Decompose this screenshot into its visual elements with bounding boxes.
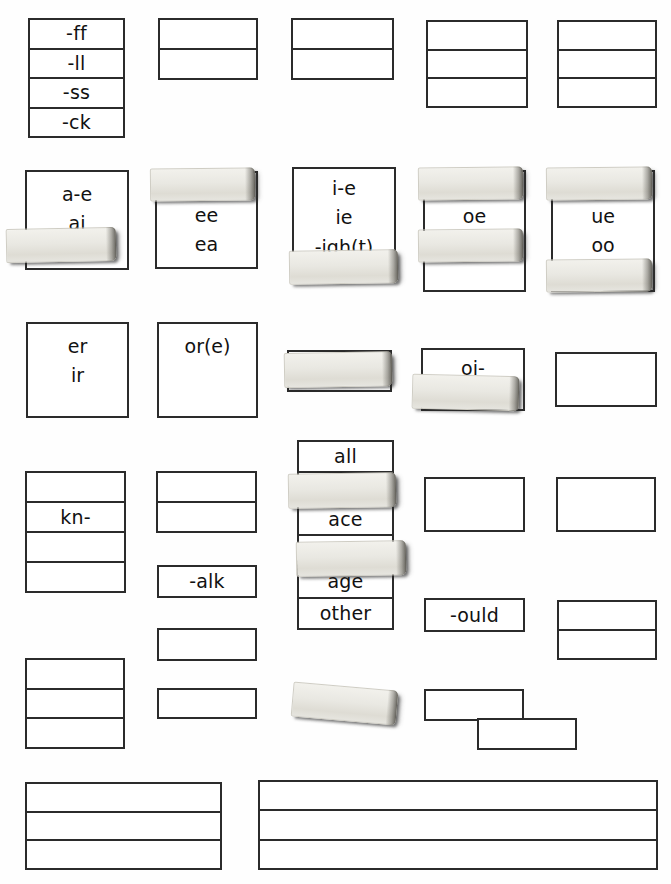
box-ould[interactable]: -ould (424, 598, 525, 632)
grapheme-label: oe (463, 202, 486, 231)
worksheet-page: -ff -ll -ss -ck a-e ai ee ea i-e ie -igh… (0, 0, 671, 884)
table-row[interactable] (260, 811, 656, 840)
table-row[interactable] (426, 479, 523, 530)
box-r4-c2[interactable] (156, 471, 257, 533)
table-row[interactable] (426, 691, 522, 719)
table-row[interactable] (558, 479, 654, 530)
table-row[interactable] (293, 50, 392, 78)
table-row[interactable] (479, 720, 575, 748)
table-row[interactable] (559, 79, 655, 106)
box-bottom-right[interactable] (258, 780, 658, 870)
strip-oe-middle[interactable] (418, 228, 523, 262)
table-row[interactable] (559, 51, 655, 80)
table-row[interactable]: -ss (30, 79, 123, 109)
table-row[interactable] (27, 841, 220, 868)
box-alk[interactable]: -alk (157, 565, 257, 598)
box-r1-c5[interactable] (557, 20, 657, 108)
table-row[interactable] (428, 22, 526, 51)
box-r5-c1[interactable] (25, 658, 125, 749)
table-row[interactable] (158, 503, 255, 531)
table-row[interactable] (293, 20, 392, 50)
strip-r3-c3[interactable] (284, 351, 393, 388)
grapheme-label: a-e (62, 180, 92, 209)
strip-ue-top[interactable] (546, 166, 652, 200)
table-row[interactable] (27, 690, 123, 720)
table-row[interactable] (559, 22, 655, 51)
grapheme-label: ee (195, 201, 218, 230)
grapheme-label: ie (336, 203, 353, 232)
table-row[interactable]: -alk (159, 567, 255, 596)
table-row[interactable] (27, 784, 220, 813)
box-or-e[interactable]: or(e) (157, 322, 258, 418)
box-all-ace-age-other[interactable]: all ace age other (297, 440, 394, 630)
table-row[interactable]: -ould (426, 600, 523, 630)
table-row[interactable] (559, 602, 655, 631)
grapheme-label: er (68, 332, 88, 361)
strip-all-row4[interactable] (296, 540, 407, 577)
box-ff-ll-ss-ck[interactable]: -ff -ll -ss -ck (28, 18, 125, 138)
table-row[interactable] (428, 79, 526, 106)
table-row[interactable] (159, 690, 255, 717)
strip-oe-top[interactable] (418, 166, 523, 200)
box-r4-c4[interactable] (424, 477, 525, 532)
table-row[interactable] (160, 50, 256, 78)
grapheme-label: ea (195, 230, 218, 259)
box-r5-c5[interactable] (477, 718, 577, 750)
box-r4-c7[interactable] (557, 600, 657, 660)
box-r1-c4[interactable] (426, 20, 528, 108)
table-row[interactable]: all (299, 442, 392, 473)
table-row[interactable] (159, 630, 255, 659)
box-bottom-left[interactable] (25, 782, 222, 870)
table-row[interactable] (27, 660, 123, 690)
box-r5-c4[interactable] (424, 689, 524, 721)
strip-all-row2[interactable] (288, 472, 397, 509)
table-row[interactable] (27, 813, 220, 842)
table-row[interactable] (27, 473, 124, 503)
box-r1-c3[interactable] (291, 18, 394, 80)
table-row[interactable] (27, 533, 124, 563)
table-row[interactable] (27, 719, 123, 747)
box-r1-c2[interactable] (158, 18, 258, 80)
grapheme-label: ue (591, 202, 615, 231)
table-row[interactable]: -ll (30, 50, 123, 80)
strip-ue-bottom[interactable] (546, 258, 652, 292)
box-r3-c5[interactable] (555, 352, 657, 407)
grapheme-label: ir (71, 361, 84, 390)
table-row[interactable]: -ck (30, 109, 123, 137)
box-kn[interactable]: kn- (25, 471, 126, 593)
table-row[interactable]: ace (299, 505, 392, 536)
box-r5-c3[interactable] (157, 688, 257, 719)
table-row[interactable] (260, 841, 656, 868)
box-r5-c2[interactable] (157, 628, 257, 661)
table-row[interactable]: -ff (30, 20, 123, 50)
grapheme-label: i-e (332, 174, 356, 203)
strip-i-e-bottom[interactable] (289, 249, 398, 285)
table-row[interactable] (260, 782, 656, 811)
strip-a-e-ai-bottom[interactable] (6, 227, 117, 263)
box-r4-c5[interactable] (556, 477, 656, 532)
table-row[interactable] (559, 631, 655, 658)
table-row[interactable] (27, 563, 124, 591)
strip-oi-bottom[interactable] (412, 374, 520, 412)
table-row[interactable] (160, 20, 256, 50)
table-row[interactable] (158, 473, 255, 503)
grapheme-label: oo (591, 231, 614, 260)
strip-r5-tilted[interactable] (291, 681, 399, 725)
table-row[interactable] (428, 51, 526, 80)
grapheme-label: or(e) (185, 332, 231, 361)
table-row[interactable]: kn- (27, 503, 124, 533)
table-row[interactable]: other (299, 599, 392, 628)
box-er-ir[interactable]: er ir (26, 322, 129, 418)
strip-ee-top[interactable] (150, 167, 255, 201)
